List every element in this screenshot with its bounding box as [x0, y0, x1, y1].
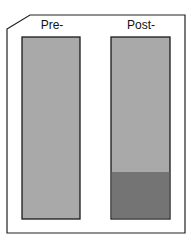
diagram-canvas	[0, 0, 188, 237]
post-label: Post-	[111, 18, 171, 32]
pre-tube	[22, 37, 80, 219]
pre-label: Pre-	[22, 18, 82, 32]
post-tube-sediment	[112, 172, 170, 218]
